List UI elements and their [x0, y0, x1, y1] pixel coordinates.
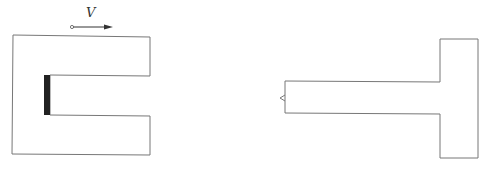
notch-marker — [280, 95, 285, 101]
c-shape — [12, 35, 150, 155]
velocity-arrow — [70, 25, 113, 30]
diagram-canvas — [0, 0, 487, 178]
t-shape — [285, 39, 478, 158]
velocity-label: V — [86, 5, 95, 20]
dark-bar — [44, 75, 50, 115]
